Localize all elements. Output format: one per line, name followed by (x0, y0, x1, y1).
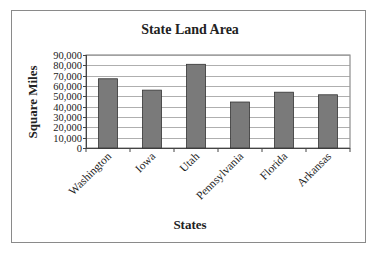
bar-arkansas (319, 95, 338, 148)
x-tick-label: Iowa (133, 150, 158, 175)
y-tick-label: 80,000 (53, 60, 82, 71)
y-tick-label: 70,000 (53, 71, 82, 82)
y-tick-label: 50,000 (53, 91, 82, 102)
bar-pennsylvania (231, 102, 250, 148)
y-tick-label: 30,000 (53, 112, 82, 123)
bar-utah (187, 64, 206, 148)
bar-washington (99, 79, 118, 148)
y-tick-label: 0 (77, 143, 82, 154)
y-tick-label: 60,000 (53, 81, 82, 92)
x-tick-label: Washington (66, 150, 114, 198)
y-tick-label: 40,000 (53, 102, 82, 113)
y-tick-label: 90,000 (53, 50, 82, 61)
y-tick-label: 10,000 (53, 133, 82, 144)
bar-iowa (143, 90, 162, 148)
bar-florida (275, 92, 294, 148)
x-tick-label: Florida (257, 150, 289, 182)
bar-chart-plot: 010,00020,00030,00040,00050,00060,00070,… (0, 0, 380, 260)
y-tick-label: 20,000 (53, 122, 82, 133)
x-tick-label: Pennsylvania (194, 150, 247, 203)
x-tick-label: Utah (177, 150, 201, 174)
plot-area (86, 55, 350, 148)
x-tick-label: Arkansas (295, 150, 334, 189)
